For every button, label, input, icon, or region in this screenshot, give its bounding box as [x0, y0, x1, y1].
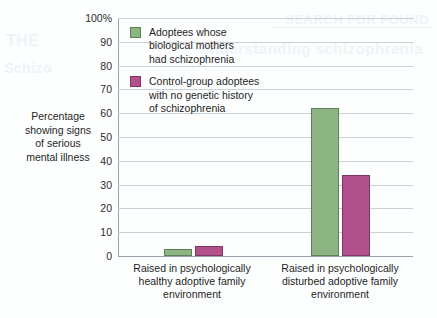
legend-item: Control-group adoptees with no genetic h… — [130, 75, 280, 115]
legend: Adoptees whose biological mothers had sc… — [130, 26, 280, 125]
x-axis-category-label: Raised in psychologically disturbed adop… — [265, 262, 415, 302]
y-axis-tick-label: 0 — [106, 250, 112, 262]
legend-item: Adoptees whose biological mothers had sc… — [130, 26, 280, 66]
y-axis-tick-label: 90 — [100, 36, 112, 48]
x-axis-line: 0 — [118, 256, 413, 257]
page-showthrough-artifact-c: THE — [6, 32, 40, 50]
y-axis-tick-label: 60 — [100, 107, 112, 119]
y-axis-title: Percentage showing signs of serious ment… — [8, 110, 108, 165]
y-axis-tick-label: 40 — [100, 155, 112, 167]
bar-chart: SEARCH FOR FOUND understanding schizophr… — [0, 0, 437, 318]
legend-swatch-icon — [130, 27, 141, 38]
bar — [164, 249, 192, 256]
page-showthrough-artifact-d: Schizo — [4, 60, 52, 76]
y-axis-tick-label: 30 — [100, 179, 112, 191]
gridline: 100% — [118, 18, 413, 19]
bar — [342, 175, 370, 256]
bar — [195, 246, 223, 256]
x-axis-category-label: Raised in psychologically healthy adopti… — [118, 262, 266, 302]
gridline: 40 — [118, 161, 413, 162]
legend-swatch-icon — [130, 76, 141, 87]
y-axis-tick-label: 20 — [100, 202, 112, 214]
y-axis-tick-label: 50 — [100, 131, 112, 143]
y-axis-tick-label: 100% — [85, 12, 112, 24]
bar — [311, 108, 339, 256]
y-axis-tick-label: 70 — [100, 83, 112, 95]
y-axis-tick-label: 80 — [100, 60, 112, 72]
legend-label: Control-group adoptees with no genetic h… — [149, 75, 259, 115]
legend-label: Adoptees whose biological mothers had sc… — [149, 26, 234, 66]
y-axis-tick-label: 10 — [100, 226, 112, 238]
gridline: 50 — [118, 137, 413, 138]
